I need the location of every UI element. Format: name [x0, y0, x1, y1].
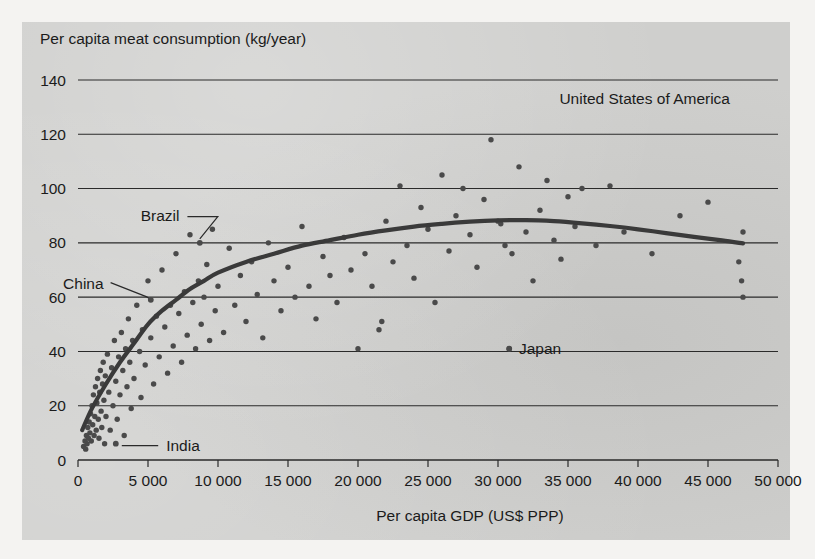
x-tick-label-0: 0: [74, 472, 83, 489]
data-point: [544, 178, 549, 183]
data-point: [173, 251, 178, 256]
data-point: [91, 433, 96, 438]
data-point: [446, 248, 451, 253]
data-point: [101, 360, 106, 365]
x-tick-label-20000: 20 000: [334, 472, 382, 489]
data-point: [278, 308, 283, 313]
data-point: [705, 199, 710, 204]
data-point: [105, 351, 110, 356]
data-point: [113, 379, 118, 384]
data-point: [334, 300, 339, 305]
data-point: [502, 243, 507, 248]
data-point: [106, 389, 111, 394]
annotation-label-usa: United States of America: [559, 90, 730, 107]
data-point: [110, 403, 115, 408]
y-tick-label-100: 100: [40, 180, 66, 197]
data-point: [418, 205, 423, 210]
data-point: [83, 446, 88, 451]
annotation-label-china: China: [63, 275, 104, 292]
data-point: [201, 294, 206, 299]
data-point: [481, 197, 486, 202]
data-point: [299, 224, 304, 229]
data-point: [185, 332, 190, 337]
data-point: [102, 441, 107, 446]
data-point: [740, 229, 745, 234]
x-tick-label-5000: 5 000: [129, 472, 168, 489]
data-point: [96, 436, 101, 441]
data-point: [327, 273, 332, 278]
data-point: [90, 422, 95, 427]
data-point: [207, 338, 212, 343]
scatter-chart: Per capita meat consumption (kg/year)020…: [0, 0, 815, 559]
data-point: [621, 229, 626, 234]
data-point: [306, 284, 311, 289]
x-tick-label-45000: 45 000: [684, 472, 732, 489]
data-point: [145, 278, 150, 283]
data-point: [134, 303, 139, 308]
data-point: [199, 322, 204, 327]
data-point: [453, 213, 458, 218]
data-point: [523, 229, 528, 234]
annotation-label-brazil: Brazil: [141, 207, 180, 224]
data-point: [565, 194, 570, 199]
x-tick-label-50000: 50 000: [754, 472, 802, 489]
annotation-point-india: [113, 441, 119, 447]
data-point: [96, 417, 101, 422]
data-point: [94, 427, 99, 432]
data-point: [355, 346, 360, 351]
data-point: [129, 406, 134, 411]
data-point: [112, 338, 117, 343]
data-point: [98, 368, 103, 373]
y-tick-label-80: 80: [49, 234, 67, 251]
data-point: [215, 284, 220, 289]
x-tick-label-25000: 25 000: [404, 472, 452, 489]
data-point: [537, 208, 542, 213]
data-point: [558, 256, 563, 261]
data-point: [530, 278, 535, 283]
data-point: [165, 370, 170, 375]
x-tick-label-35000: 35 000: [544, 472, 592, 489]
data-point: [379, 319, 384, 324]
data-point: [509, 251, 514, 256]
data-point: [260, 335, 265, 340]
data-point: [138, 395, 143, 400]
data-point: [210, 227, 215, 232]
data-point: [117, 392, 122, 397]
data-point: [238, 273, 243, 278]
data-point: [607, 183, 612, 188]
data-point: [474, 265, 479, 270]
data-point: [677, 213, 682, 218]
annotation-point-brazil: [197, 240, 203, 246]
x-axis-title: Per capita GDP (US$ PPP): [376, 507, 564, 524]
data-point: [369, 284, 374, 289]
data-point: [397, 183, 402, 188]
x-tick-label-10000: 10 000: [194, 472, 242, 489]
data-point: [98, 408, 103, 413]
data-point: [213, 308, 218, 313]
data-point: [736, 259, 741, 264]
y-tick-label-40: 40: [49, 343, 67, 360]
data-point: [101, 398, 106, 403]
annotation-point-china: [148, 297, 154, 303]
data-point: [348, 267, 353, 272]
y-tick-label-20: 20: [49, 397, 67, 414]
annotation-label-india: India: [166, 437, 200, 454]
page-root: Per capita meat consumption (kg/year)020…: [0, 0, 815, 559]
data-point: [143, 362, 148, 367]
data-point: [204, 262, 209, 267]
data-point: [362, 251, 367, 256]
data-point: [221, 330, 226, 335]
trend-line: [82, 220, 743, 430]
data-point: [593, 243, 598, 248]
data-point: [126, 316, 131, 321]
data-point: [93, 384, 98, 389]
data-point: [108, 427, 113, 432]
data-point: [122, 433, 127, 438]
data-point: [151, 381, 156, 386]
data-point: [176, 311, 181, 316]
data-point: [232, 303, 237, 308]
data-point: [179, 360, 184, 365]
data-point: [739, 278, 744, 283]
data-point: [439, 172, 444, 177]
data-point: [649, 251, 654, 256]
